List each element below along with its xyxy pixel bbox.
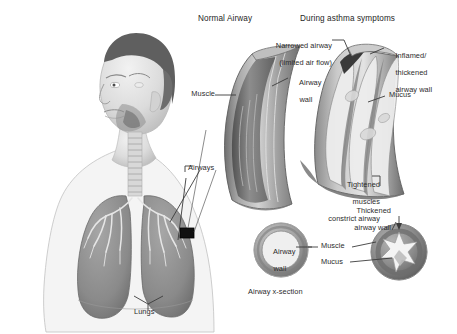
airway-wall-line1: Airway <box>299 78 321 87</box>
human-figure-artwork <box>44 33 216 332</box>
xsection-wall-line2: wall <box>273 264 286 273</box>
narrowed-line2: (limited air flow) <box>279 58 332 67</box>
lung-zoom-callout-box <box>180 228 194 238</box>
heading-asthma-symptoms: During asthma symptoms <box>300 14 395 23</box>
label-airway-wall-normal: Airway wall <box>291 70 322 113</box>
label-airways: Airways <box>188 164 214 173</box>
label-airway-wall-xsection: Airway wall <box>265 239 296 282</box>
label-thickened-airway-wall: Thickened airway wall <box>325 198 391 241</box>
narrowed-line1: Narrowed airway <box>276 41 332 50</box>
tightened-line1: Tightened <box>347 180 380 189</box>
asthma-illustration-figure: Normal Airway During asthma symptoms Air… <box>0 0 457 334</box>
thickened-line1: Thickened <box>356 206 391 215</box>
label-mucus-tube: Mucus <box>389 91 411 100</box>
caption-airway-xsection: Airway x-section <box>248 288 303 297</box>
label-mucus-xsection: Mucus <box>321 258 343 267</box>
label-narrowed-airway: Narrowed airway (limited air flow) <box>250 33 332 76</box>
airway-wall-line2: wall <box>299 95 312 104</box>
inflamed-line1: Inflamed/ <box>395 51 426 60</box>
label-muscle-xsection: Muscle <box>321 242 345 251</box>
label-muscle-normal: Muscle <box>175 90 215 99</box>
label-lungs: Lungs <box>134 308 154 317</box>
xsection-wall-line1: Airway <box>273 247 295 256</box>
thickened-line2: airway wall <box>354 223 391 232</box>
inflamed-line2: thickened <box>395 68 427 77</box>
heading-normal-airway: Normal Airway <box>198 14 252 23</box>
